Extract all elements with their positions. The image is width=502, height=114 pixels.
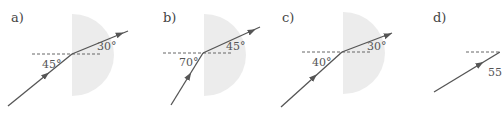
incident-ray-a	[8, 54, 72, 106]
panel-label-a: a)	[11, 10, 24, 25]
panel-c	[281, 12, 392, 107]
semicircle-block-a	[72, 14, 114, 96]
incident-angle-d: 55	[488, 66, 502, 79]
refracted-angle-b: 45°	[226, 40, 246, 53]
semicircle-block-b	[204, 14, 246, 96]
semicircle-block-c	[343, 12, 385, 94]
incident-angle-a: 45°	[42, 58, 62, 71]
panel-a	[8, 14, 128, 106]
incident-angle-b: 70°	[179, 56, 199, 69]
incident-angle-c: 40°	[312, 56, 332, 69]
panel-b	[163, 14, 260, 105]
panel-label-b: b)	[163, 10, 176, 25]
panel-label-d: d)	[433, 10, 446, 25]
refracted-angle-c: 30°	[367, 40, 387, 53]
refracted-angle-a: 30°	[97, 40, 117, 53]
panel-label-c: c)	[282, 10, 294, 25]
